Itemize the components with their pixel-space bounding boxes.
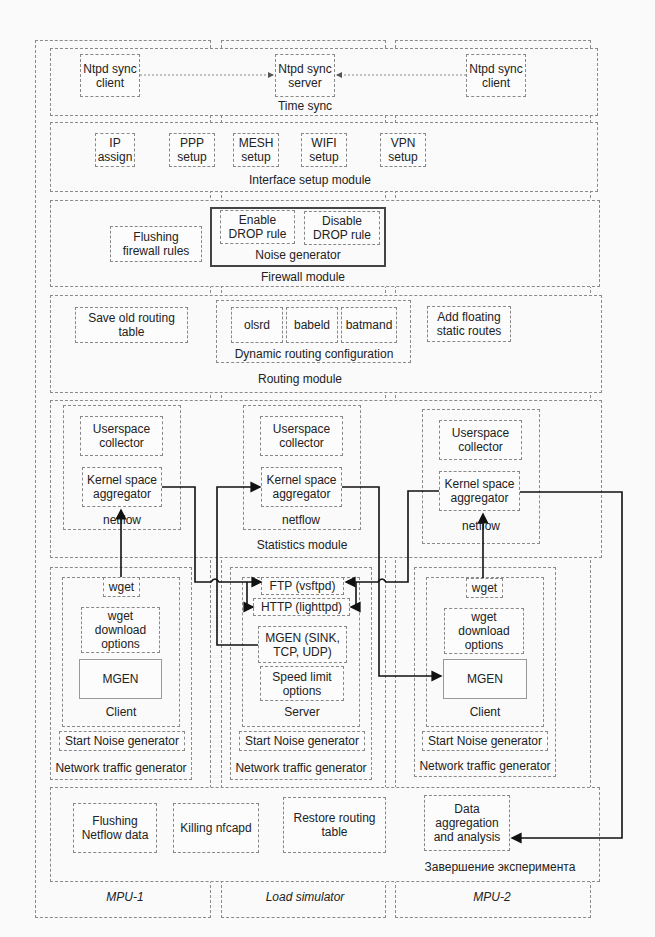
connector-lines [0,0,655,937]
